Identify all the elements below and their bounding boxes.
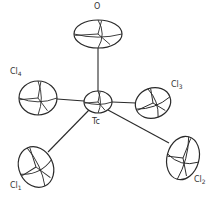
atom-label-o: O <box>94 3 100 11</box>
atom-label-cl4: Cl4 <box>10 68 22 77</box>
atom-label-cl3: Cl3 <box>171 81 183 90</box>
bond-tc-cl4 <box>57 99 84 101</box>
atom-o-ellipsoid <box>74 20 122 48</box>
atom-label-tc: Tc <box>92 118 100 126</box>
atom-tc-ellipsoid <box>84 91 112 113</box>
bond-tc-cl1 <box>48 110 89 152</box>
atom-label-cl2: Cl2 <box>194 176 206 185</box>
atom-label-cl1: Cl1 <box>10 182 22 191</box>
ortep-diagram: OTcCl4Cl3Cl1Cl2 <box>0 0 211 199</box>
atom-cl3-ellipsoid <box>131 83 175 124</box>
bond-tc-cl3 <box>112 102 136 103</box>
atom-cl4-ellipsoid <box>19 81 57 115</box>
molecule-drawing <box>0 0 211 199</box>
